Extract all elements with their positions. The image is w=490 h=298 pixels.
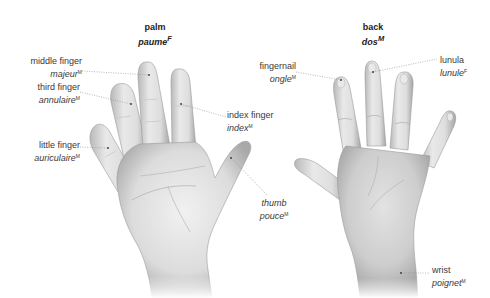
back-title-fr: dosM xyxy=(355,33,391,48)
back-title: back dosM xyxy=(355,22,391,48)
label-thumb: thumb pouceM xyxy=(254,198,294,222)
label-fingernail: fingernail ongleM xyxy=(250,61,296,85)
back-hand xyxy=(294,61,455,298)
palm-hand xyxy=(90,62,251,298)
label-third-finger: third finger annulaireM xyxy=(20,82,80,106)
label-wrist: wrist poignetM xyxy=(432,265,484,289)
palm-title: palm paumeF xyxy=(135,22,175,48)
palm-title-fr: paumeF xyxy=(135,33,175,48)
back-title-en: back xyxy=(355,22,391,33)
label-middle-finger: middle finger majeurM xyxy=(20,56,82,80)
label-index-finger: index finger indexM xyxy=(227,110,297,134)
palm-title-en: palm xyxy=(135,22,175,33)
label-little-finger: little finger auriculaireM xyxy=(14,140,80,164)
hand-anatomy-diagram: palm paumeF back dosM middle finger maje… xyxy=(0,0,490,298)
label-lunula: lunula lunuleF xyxy=(440,55,488,79)
